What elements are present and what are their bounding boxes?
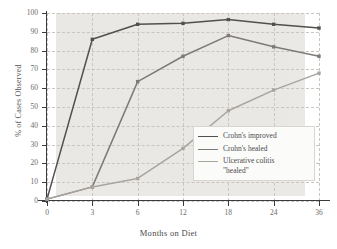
legend-line-swatch	[198, 149, 218, 150]
data-point-marker	[181, 22, 184, 25]
data-point-marker	[317, 55, 320, 58]
data-point-marker	[272, 45, 275, 48]
data-point-marker	[272, 23, 275, 26]
chart-legend: Crohn's improvedCrohn's healedUlcerative…	[193, 126, 315, 181]
legend-label: Crohn's healed	[223, 144, 267, 154]
data-point-marker	[181, 55, 184, 58]
legend-item: Crohn's improved	[198, 131, 310, 141]
data-point-marker	[317, 71, 320, 74]
legend-line-swatch	[198, 136, 218, 137]
legend-label: Crohn's improved	[223, 131, 277, 141]
legend-item: Ulcerative colitis "healed"	[198, 156, 310, 175]
data-point-marker	[45, 197, 48, 200]
legend-item: Crohn's healed	[198, 144, 310, 154]
data-point-marker	[91, 185, 94, 188]
data-point-marker	[317, 26, 320, 29]
data-point-marker	[91, 38, 94, 41]
data-point-marker	[136, 80, 139, 83]
data-point-marker	[136, 177, 139, 180]
data-point-marker	[227, 109, 230, 112]
data-point-marker	[272, 88, 275, 91]
line-chart: % of Cases Observed 01020304050607080901…	[0, 0, 337, 249]
data-point-marker	[136, 23, 139, 26]
x-axis-title: Months on Diet	[0, 228, 337, 238]
legend-label: Ulcerative colitis "healed"	[223, 156, 274, 175]
legend-line-swatch	[198, 161, 218, 162]
data-point-marker	[181, 147, 184, 150]
data-point-marker	[227, 18, 230, 21]
series-layer	[0, 0, 337, 249]
data-point-marker	[227, 34, 230, 37]
